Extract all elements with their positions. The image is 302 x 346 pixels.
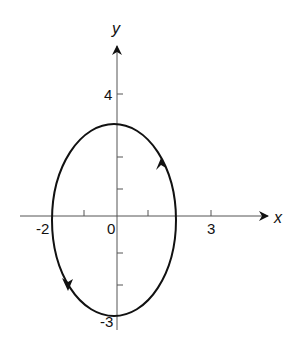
y-tick-label-neg3: -3: [100, 313, 113, 330]
phase-diagram: y x 4 -3 -2 0 3: [0, 0, 302, 346]
y-tick-label-4: 4: [104, 86, 112, 103]
y-axis-label: y: [111, 20, 121, 37]
x-tick-label-0: 0: [107, 220, 115, 237]
x-ticks: [84, 210, 211, 216]
x-axis-label: x: [273, 209, 283, 226]
x-tick-label-3: 3: [207, 220, 215, 237]
y-ticks: [117, 94, 123, 285]
x-tick-label-neg2: -2: [36, 220, 49, 237]
